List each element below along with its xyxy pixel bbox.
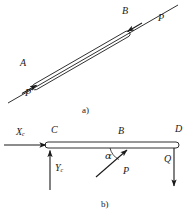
point-c-label: C bbox=[51, 125, 58, 135]
panel-b-graphics bbox=[4, 142, 179, 190]
force-p-label-upper: P bbox=[158, 13, 164, 23]
force-action-line-a bbox=[8, 5, 178, 103]
point-a-label: A bbox=[20, 58, 26, 68]
mechanics-figure: A B P P a) Xc Yc C B D α P Q b) bbox=[0, 0, 196, 221]
point-b-label: B bbox=[122, 6, 128, 16]
reaction-x-label: Xc bbox=[16, 127, 25, 137]
point-d-label: D bbox=[175, 124, 182, 134]
force-q-label: Q bbox=[164, 154, 171, 164]
point-b-label-panel-b: B bbox=[118, 126, 124, 136]
reaction-x-subscript: c bbox=[22, 131, 25, 137]
reaction-y-label: Yc bbox=[55, 163, 63, 173]
angle-alpha-label: α bbox=[105, 151, 112, 161]
caption-b: b) bbox=[101, 199, 109, 209]
force-p-label-lower: P bbox=[25, 88, 31, 98]
force-p-label-panel-b: P bbox=[123, 166, 129, 176]
caption-a: a) bbox=[82, 105, 89, 115]
panel-a-graphics bbox=[8, 5, 178, 103]
figure-svg bbox=[0, 0, 196, 221]
reaction-y-subscript: c bbox=[61, 167, 64, 173]
bar-cd bbox=[45, 142, 179, 148]
